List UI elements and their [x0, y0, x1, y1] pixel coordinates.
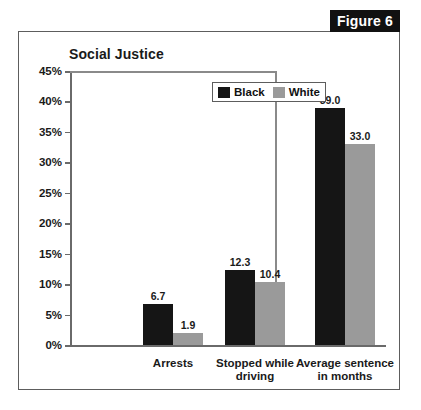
- figure-number-label: Figure 6: [337, 13, 393, 29]
- y-tick-label: 5%: [45, 309, 62, 321]
- y-tick-mark: [65, 223, 70, 225]
- y-tick-label: 15%: [39, 248, 62, 260]
- y-tick-label: 40%: [39, 95, 62, 107]
- y-tick-mark: [65, 162, 70, 164]
- bar-white: [173, 333, 203, 345]
- y-tick-label: 20%: [39, 217, 62, 229]
- y-axis-line: [70, 71, 72, 345]
- bar-value-label: 33.0: [339, 130, 381, 142]
- y-tick-mark: [65, 71, 70, 73]
- x-axis-label: Average sentencein months: [285, 357, 405, 383]
- figure-number-tab: Figure 6: [330, 10, 400, 32]
- bar-value-label: 1.9: [167, 319, 209, 331]
- bar-value-label: 10.4: [249, 268, 291, 280]
- y-tick-label: 30%: [39, 156, 62, 168]
- y-tick-mark: [65, 284, 70, 286]
- x-axis-line: [70, 345, 386, 347]
- legend-label-black: Black: [234, 86, 265, 98]
- plot-area: 0%5%10%15%20%25%30%35%40%45% 6.71.912.31…: [70, 71, 386, 345]
- y-tick-label: 0%: [45, 339, 62, 351]
- x-axis-label-line: Average sentence: [285, 357, 405, 370]
- bar-white: [255, 282, 285, 345]
- legend-swatch-black-icon: [218, 87, 230, 98]
- y-tick-mark: [65, 254, 70, 256]
- bar-black: [225, 270, 255, 345]
- plot-top-rule: [70, 71, 276, 73]
- x-axis-label-line: in months: [285, 370, 405, 383]
- bar-white: [345, 144, 375, 345]
- y-tick-mark: [65, 193, 70, 195]
- y-tick-label: 45%: [39, 65, 62, 77]
- bar-black: [315, 108, 345, 345]
- y-tick-mark: [65, 132, 70, 134]
- y-tick-mark: [65, 101, 70, 103]
- y-tick-label: 10%: [39, 278, 62, 290]
- legend-swatch-white-icon: [273, 87, 285, 98]
- bar-value-label: 6.7: [137, 290, 179, 302]
- y-tick-mark: [65, 315, 70, 317]
- chart-legend: Black White: [212, 82, 326, 102]
- bar-value-label: 12.3: [219, 256, 261, 268]
- y-tick-label: 35%: [39, 126, 62, 138]
- legend-item-black: Black: [218, 86, 265, 98]
- y-tick-mark: [65, 345, 70, 347]
- chart-title: Social Justice: [69, 46, 164, 62]
- legend-label-white: White: [289, 86, 320, 98]
- legend-item-white: White: [273, 86, 320, 98]
- y-tick-label: 25%: [39, 187, 62, 199]
